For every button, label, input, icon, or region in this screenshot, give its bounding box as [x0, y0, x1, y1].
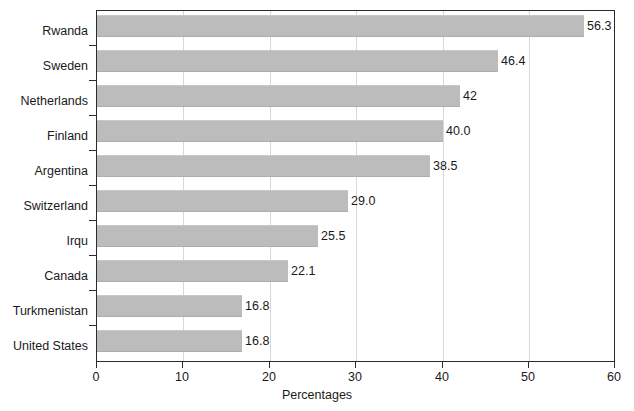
category-label-sweden: Sweden — [0, 59, 88, 73]
x-axis-title: Percentages — [0, 388, 634, 402]
bar-rwanda — [97, 15, 584, 37]
x-axis-tick — [614, 362, 615, 368]
x-axis-tick — [528, 362, 529, 368]
x-axis-tick — [96, 362, 97, 368]
y-axis-tick — [89, 255, 96, 256]
x-axis-tick — [269, 362, 270, 368]
y-axis-tick — [89, 45, 96, 46]
x-axis-tick-label-10: 10 — [175, 370, 189, 384]
plot-area — [96, 10, 615, 362]
bar-sweden — [97, 50, 498, 72]
value-label-turkmenistan: 16.8 — [245, 299, 269, 313]
bar-netherlands — [97, 85, 460, 107]
category-label-argentina: Argentina — [0, 164, 88, 178]
x-axis-tick-label-0: 0 — [93, 370, 100, 384]
category-label-canada: Canada — [0, 269, 88, 283]
value-label-switzerland: 29.0 — [351, 194, 375, 208]
x-axis-tick-label-60: 60 — [607, 370, 621, 384]
bar-turkmenistan — [97, 295, 242, 317]
y-axis-tick — [89, 290, 96, 291]
bar-switzerland — [97, 190, 348, 212]
value-label-united-states: 16.8 — [245, 334, 269, 348]
bar-chart: 56.3 46.4 42 40.0 38.5 29.0 25.5 22.1 16… — [0, 0, 634, 411]
x-axis-tick-label-20: 20 — [262, 370, 276, 384]
x-axis-tick-label-30: 30 — [348, 370, 362, 384]
value-label-canada: 22.1 — [291, 264, 315, 278]
bar-canada — [97, 260, 288, 282]
bar-irqu — [97, 225, 318, 247]
gridline-50 — [529, 11, 530, 361]
bar-argentina — [97, 155, 430, 177]
y-axis-tick — [89, 115, 96, 116]
value-label-argentina: 38.5 — [433, 159, 457, 173]
category-label-turkmenistan: Turkmenistan — [0, 304, 88, 318]
x-axis-tick-label-40: 40 — [435, 370, 449, 384]
y-axis-tick — [89, 220, 96, 221]
x-axis-tick — [442, 362, 443, 368]
y-axis-tick — [89, 80, 96, 81]
bar-finland — [97, 120, 443, 142]
category-label-united-states: United States — [0, 339, 88, 353]
value-label-finland: 40.0 — [446, 124, 470, 138]
category-label-finland: Finland — [0, 129, 88, 143]
category-label-switzerland: Switzerland — [0, 199, 88, 213]
value-label-irqu: 25.5 — [321, 229, 345, 243]
y-axis-tick — [89, 185, 96, 186]
category-label-netherlands: Netherlands — [0, 94, 88, 108]
value-label-netherlands: 42 — [463, 89, 477, 103]
x-axis-tick — [182, 362, 183, 368]
value-label-sweden: 46.4 — [501, 54, 525, 68]
category-label-rwanda: Rwanda — [0, 24, 88, 38]
y-axis-tick — [89, 325, 96, 326]
bar-united-states — [97, 330, 242, 352]
category-label-irqu: Irqu — [0, 234, 88, 248]
value-label-rwanda: 56.3 — [587, 19, 611, 33]
y-axis-tick — [89, 150, 96, 151]
x-axis-tick-label-50: 50 — [521, 370, 535, 384]
x-axis-tick — [355, 362, 356, 368]
